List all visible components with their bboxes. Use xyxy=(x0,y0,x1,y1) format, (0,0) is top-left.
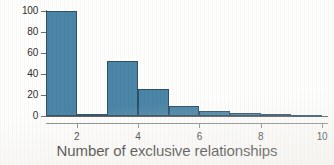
y-tick-label: 20 xyxy=(0,90,38,100)
histogram-figure: 020406080100 246810 Number of exclusive … xyxy=(0,0,334,165)
histogram-bar xyxy=(169,106,200,117)
x-tick-label: 4 xyxy=(123,131,153,142)
histogram-bar xyxy=(46,11,77,116)
y-tick-label: 80 xyxy=(0,27,38,37)
histogram-bar xyxy=(107,61,138,116)
plot-area: 020406080100 246810 xyxy=(0,0,334,140)
histogram-bar xyxy=(138,89,169,116)
x-tick-label: 10 xyxy=(307,131,334,142)
y-tick-label: 60 xyxy=(0,48,38,58)
x-tick-mark xyxy=(322,123,323,128)
histogram-bar xyxy=(261,114,292,116)
x-tick-mark xyxy=(199,123,200,128)
plot-baseline xyxy=(46,116,328,117)
x-tick-mark xyxy=(138,123,139,128)
histogram-bar xyxy=(199,111,230,116)
histogram-bar xyxy=(291,115,322,117)
x-tick-label: 8 xyxy=(246,131,276,142)
x-axis-title: Number of exclusive relationships xyxy=(0,142,334,159)
histogram-bar xyxy=(230,113,261,116)
histogram-bar xyxy=(77,114,108,116)
x-tick-label: 6 xyxy=(184,131,214,142)
x-tick-mark xyxy=(77,123,78,128)
y-tick-label: 0 xyxy=(0,111,38,121)
x-axis-line xyxy=(46,123,328,124)
y-tick-label: 40 xyxy=(0,69,38,79)
y-tick-label: 100 xyxy=(0,6,38,16)
x-tick-mark xyxy=(261,123,262,128)
x-tick-label: 2 xyxy=(62,131,92,142)
